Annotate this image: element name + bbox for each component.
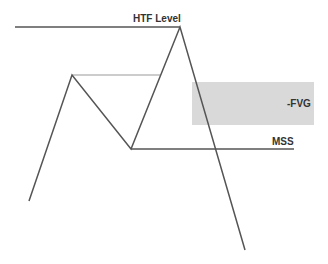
mss-label: MSS: [272, 136, 294, 147]
price-path: [29, 27, 245, 250]
fvg-label: -FVG: [287, 98, 311, 109]
market-structure-diagram: HTF Level -FVG MSS: [0, 0, 328, 264]
htf-level-label: HTF Level: [133, 13, 181, 24]
